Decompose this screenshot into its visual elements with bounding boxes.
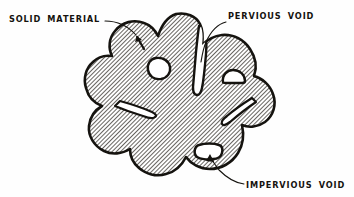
- label-pervious-void: PERVIOUS VOID: [228, 11, 314, 21]
- diagram-canvas: SOLID MATERIAL PERVIOUS VOID IMPERVIOUS …: [0, 0, 354, 197]
- label-impervious-void: IMPERVIOUS VOID: [246, 180, 345, 190]
- solid-material-body: [85, 13, 275, 175]
- diagram-figure: SOLID MATERIAL PERVIOUS VOID IMPERVIOUS …: [0, 0, 354, 197]
- enclosed-void-upper-left: [148, 58, 170, 79]
- enclosed-void-right-dome: [223, 70, 245, 83]
- label-solid-material: SOLID MATERIAL: [9, 14, 100, 24]
